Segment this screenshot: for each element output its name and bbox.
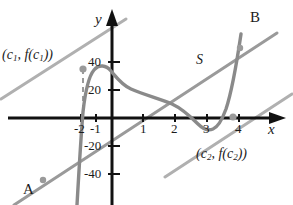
y-axis-label: y	[95, 12, 102, 27]
y-tick-label-neg40: -40	[84, 167, 101, 180]
c2-open-paren: (c	[196, 146, 207, 161]
y-tick-label-20: 20	[88, 83, 101, 96]
c1-mid-text: , f(c	[17, 47, 39, 62]
x-tick-label-4: 4	[235, 122, 242, 135]
point-b-label: B	[250, 10, 260, 25]
c1-open-paren: (c	[2, 47, 13, 62]
marker-point-c2	[229, 113, 236, 120]
x-tick-label-2: 2	[171, 122, 178, 135]
c2-subscript-b: 2	[233, 152, 238, 162]
mean-value-theorem-figure: y x -2 -1 1 2 3 4 40 20 -20 -40 A B S (c…	[0, 0, 293, 205]
c2-subscript-a: 2	[207, 152, 212, 162]
c2-mid-text: , f(c	[211, 146, 233, 161]
x-tick-label-1: 1	[140, 122, 147, 135]
point-a-label: A	[23, 182, 34, 197]
c1-subscript-b: 1	[39, 53, 44, 63]
marker-point-c1	[79, 65, 86, 72]
secant-label: S	[196, 53, 203, 67]
c1-subscript-a: 1	[13, 53, 18, 63]
x-tick-label-3: 3	[203, 122, 210, 135]
marker-point-b	[237, 45, 243, 51]
c1-close-paren: ))	[44, 47, 53, 62]
marker-point-a	[40, 177, 46, 183]
c2-close-paren: ))	[238, 146, 247, 161]
y-tick-label-neg20: -20	[84, 139, 101, 152]
c1-coordinate-label: (c1, f(c1))	[2, 48, 53, 62]
x-tick-label-neg1: -1	[90, 122, 101, 135]
x-axis-label: x	[268, 122, 275, 137]
x-tick-label-neg2: -2	[74, 122, 85, 135]
c2-coordinate-label: (c2, f(c2))	[196, 147, 247, 161]
plot-canvas	[0, 0, 293, 205]
y-tick-label-40: 40	[88, 55, 101, 68]
y-axis-arrowhead	[106, 9, 118, 26]
